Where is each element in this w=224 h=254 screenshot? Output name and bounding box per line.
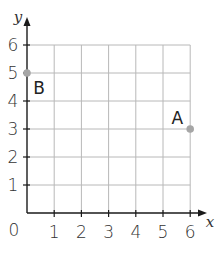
point-a-label: A [171,108,183,128]
ticks [23,45,190,217]
y-tick-label: 6 [8,35,19,55]
y-tick-label: 2 [8,147,19,167]
origin-label: 0 [9,220,20,240]
x-axis-name: x [206,213,215,231]
x-tick-label: 4 [130,222,141,242]
y-axis-name: y [13,8,23,26]
x-tick-label: 1 [49,222,60,242]
x-tick-label: 3 [103,222,114,242]
point-b-marker [23,69,31,77]
x-tick-label: 2 [76,222,87,242]
y-tick-label: 4 [8,91,19,111]
y-tick-label: 1 [8,175,19,195]
x-tick-label: 5 [158,222,169,242]
y-tick-label: 3 [8,119,19,139]
grid-lines [27,45,190,213]
point-b-label: B [33,78,45,98]
y-axis-arrow-icon [24,17,31,26]
y-tick-label: 5 [8,63,19,83]
point-a-marker [186,125,194,133]
x-tick-label: 6 [185,222,196,242]
tick-labels: 1234561234560xy [8,8,215,242]
coordinate-grid: 1234561234560xy AB [0,0,224,254]
